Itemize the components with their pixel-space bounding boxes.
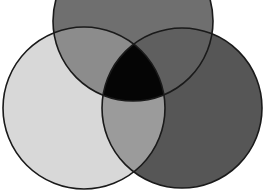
venn-diagram [0, 0, 268, 195]
